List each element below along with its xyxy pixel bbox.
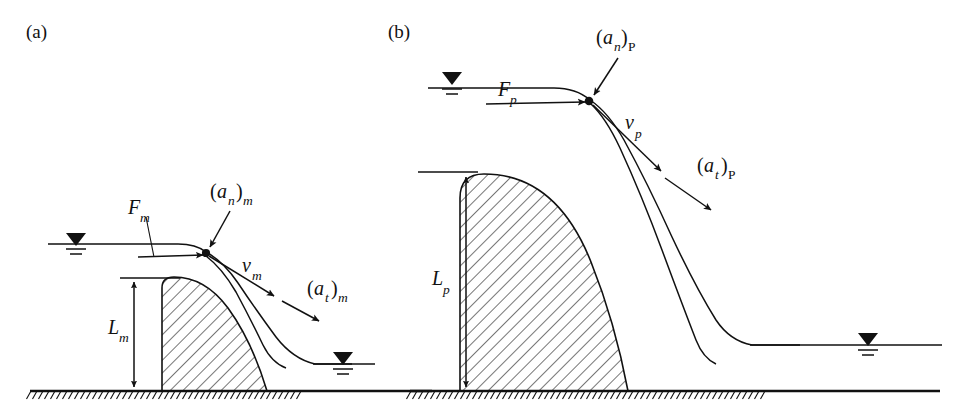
panel-b-tangential-accel-open-paren: (	[697, 154, 704, 177]
panel-a-crest-node	[202, 249, 210, 257]
panel-b-force-symbol: F	[497, 78, 511, 100]
panel-a-tangential-accel-sub: t	[325, 290, 330, 305]
panel-b-upstream-water-level-symbol	[442, 72, 462, 94]
panel-b-dam-body	[460, 174, 628, 391]
panel-a-upstream-water-surface	[48, 244, 206, 252]
panel-b-velocity-symbol: v	[625, 111, 634, 133]
panel-b-tangential-accel-label: ( a t ) P	[697, 154, 736, 182]
panel-a-normal-accel-var: a	[217, 180, 227, 202]
panel-b-normal-accel-var: a	[603, 26, 613, 48]
panel-b-normal-accel-sub: n	[614, 39, 621, 54]
panel-a-height-label: L m	[107, 316, 129, 345]
panel-a-velocity-subscript: m	[252, 268, 262, 283]
panel-b-label: (b)	[388, 21, 410, 43]
panel-a-tangential-accel-open-paren: (	[307, 277, 314, 300]
panel-b-normal-accel-close-paren: )	[621, 26, 628, 49]
panel-b-force-label: F p	[497, 78, 517, 107]
panel-b-height-label: L p	[431, 267, 450, 297]
panel-b-prototype: (b)	[388, 21, 942, 399]
panel-a-normal-accel-sub: n	[228, 193, 235, 208]
panel-b-normal-accel-label: ( a n ) P	[596, 26, 636, 54]
panel-b-downstream-water-level-symbol	[858, 333, 878, 355]
panel-b-nappe-upper-surface	[590, 100, 800, 345]
panel-a-model: (a)	[26, 21, 432, 399]
panel-a-force-label: F m	[127, 196, 150, 225]
panel-a-dam-body	[162, 277, 267, 391]
panel-a-tangential-accel-label: ( a t ) m	[307, 277, 348, 305]
panel-b-height-symbol: L	[431, 267, 443, 289]
panel-b-normal-accel-vector	[594, 58, 618, 95]
panel-a-tangential-accel-scale-sub: m	[338, 290, 348, 305]
panel-b-tangential-accel-var: a	[704, 154, 714, 176]
figure-root: (a)	[0, 0, 968, 417]
panel-b-tangential-accel-close-paren: )	[721, 154, 728, 177]
panel-b-tangential-accel-sub: t	[715, 167, 720, 182]
panel-b-normal-accel-open-paren: (	[596, 26, 603, 49]
panel-b-tangential-accel-vector	[665, 178, 711, 210]
panel-b-normal-accel-scale-sub: P	[628, 39, 636, 54]
panel-b-height-subscript: p	[442, 282, 450, 297]
panel-a-normal-accel-open-paren: (	[210, 180, 217, 203]
panel-a-velocity-symbol: v	[242, 254, 251, 276]
panel-a-height-symbol: L	[107, 316, 119, 338]
panel-a-tangential-accel-close-paren: )	[331, 277, 338, 300]
panel-b-ground	[407, 391, 941, 399]
panel-a-tangential-accel-vector	[282, 301, 319, 321]
panel-a-normal-accel-vector	[210, 211, 230, 247]
panel-a-ground	[27, 391, 433, 399]
panel-a-label: (a)	[26, 21, 47, 43]
panel-a-downstream-water-level-symbol	[333, 352, 353, 374]
panel-b-tangential-accel-scale-sub: P	[728, 167, 736, 182]
panel-a-normal-accel-label: ( a n ) m	[210, 180, 253, 208]
panel-a-normal-accel-close-paren: )	[236, 180, 243, 203]
panel-b-force-vector-Fp	[486, 102, 585, 104]
panel-a-force-subscript: m	[140, 210, 150, 225]
panel-b-crest-node	[585, 97, 594, 106]
panel-b-velocity-subscript: p	[634, 126, 642, 141]
panel-b-velocity-label: v p	[625, 111, 642, 141]
spillway-diagram: (a)	[0, 0, 968, 417]
panel-a-tangential-accel-var: a	[314, 277, 324, 299]
panel-a-normal-accel-scale-sub: m	[243, 193, 253, 208]
panel-b-force-subscript: p	[509, 92, 517, 107]
panel-a-force-symbol: F	[127, 196, 141, 218]
panel-a-height-subscript: m	[119, 330, 129, 345]
